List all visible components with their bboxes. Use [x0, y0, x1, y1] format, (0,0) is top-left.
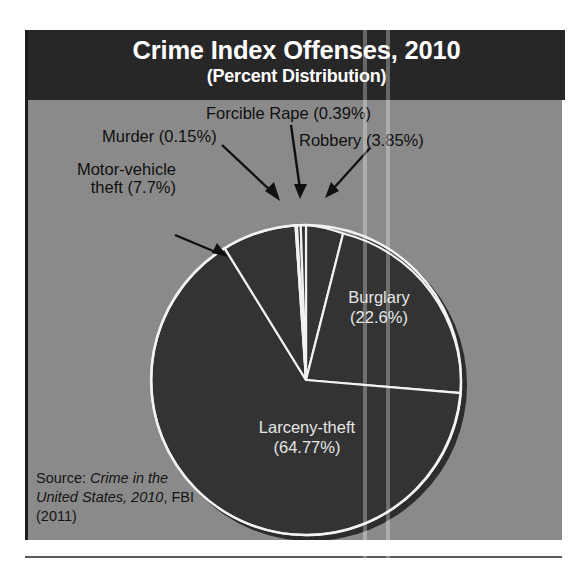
- chart-container: Crime Index Offenses, 2010 (Percent Dist…: [25, 30, 562, 540]
- callout-motor-vehicle-theft: Motor-vehicle theft (7.7%): [28, 160, 176, 197]
- callout-motor-vehicle-line1: Motor-vehicle: [77, 160, 176, 178]
- pie-label-larceny-value: (64.77%): [274, 438, 341, 456]
- arrowhead-forcible-rape: [294, 184, 307, 199]
- leader-motor-vehicle: [175, 235, 218, 253]
- crime-index-pie-figure: Crime Index Offenses, 2010 (Percent Dist…: [0, 0, 585, 563]
- source-prefix: Source:: [36, 470, 90, 486]
- bottom-divider: [25, 556, 562, 558]
- pie-label-larceny-name: Larceny-theft: [259, 418, 355, 436]
- chart-title: Crime Index Offenses, 2010: [28, 37, 565, 64]
- arrowhead-murder: [265, 182, 280, 201]
- pie-label-burglary-value: (22.6%): [350, 308, 408, 326]
- leader-murder: [222, 145, 272, 192]
- source-note: Source: Crime in the United States, 2010…: [36, 469, 206, 526]
- callout-murder: Murder (0.15%): [102, 127, 217, 145]
- pie-label-burglary-name: Burglary: [348, 288, 409, 306]
- callout-robbery: Robbery (3.85%): [299, 131, 424, 149]
- callout-motor-vehicle-line2: theft (7.7%): [91, 178, 176, 196]
- leader-robbery: [333, 148, 370, 189]
- plot-area: Forcible Rape (0.39%) Murder (0.15%) Rob…: [28, 100, 565, 540]
- chart-subtitle: (Percent Distribution): [28, 66, 565, 87]
- chart-title-band: Crime Index Offenses, 2010 (Percent Dist…: [28, 30, 565, 100]
- pie-label-burglary: Burglary (22.6%): [309, 288, 449, 328]
- callout-forcible-rape: Forcible Rape (0.39%): [206, 104, 371, 122]
- pie-label-larceny-theft: Larceny-theft (64.77%): [207, 418, 407, 458]
